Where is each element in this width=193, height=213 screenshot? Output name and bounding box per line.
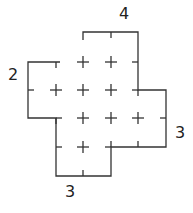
grid-figure <box>0 0 193 213</box>
label-bottom: 3 <box>65 184 75 200</box>
label-left: 2 <box>8 67 18 83</box>
outline-top <box>28 32 166 176</box>
label-right: 3 <box>175 125 185 141</box>
label-top: 4 <box>119 6 129 22</box>
